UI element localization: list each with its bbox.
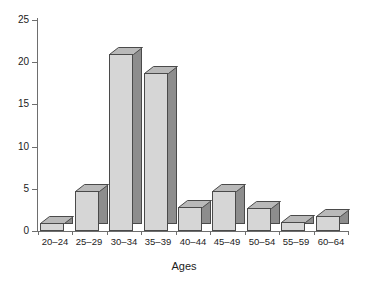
- bar-front-face: [109, 54, 133, 231]
- x-tick-label: 35–39: [141, 236, 175, 247]
- bar: [40, 216, 73, 231]
- bar: [247, 201, 280, 231]
- y-tick-mark: [32, 189, 37, 190]
- x-tick-label: 50–54: [245, 236, 279, 247]
- x-tick-mark: [314, 231, 315, 235]
- bar-chart: 0510152025 20–2425–2930–3435–3940–4445–4…: [0, 0, 368, 286]
- bar: [281, 215, 314, 231]
- x-tick-label: 40–44: [176, 236, 210, 247]
- bar-top-face: [178, 200, 213, 209]
- bar-top-face: [144, 66, 179, 75]
- x-tick-mark: [107, 231, 108, 235]
- bar-top-face: [40, 216, 75, 225]
- x-tick-label: 20–24: [38, 236, 72, 247]
- x-tick-mark: [141, 231, 142, 235]
- x-tick-label: 45–49: [210, 236, 244, 247]
- bar: [316, 209, 349, 231]
- bar-front-face: [144, 73, 168, 231]
- y-tick-label: 5: [5, 184, 29, 194]
- bar-front-face: [178, 207, 202, 231]
- bar: [178, 200, 211, 231]
- bar: [109, 47, 142, 231]
- bar-front-face: [75, 191, 99, 231]
- x-axis-title: Ages: [0, 260, 368, 272]
- bar-top-face: [281, 215, 316, 224]
- bar-top-face: [212, 184, 247, 193]
- y-tick-label: 15: [5, 99, 29, 109]
- bar-top-face: [247, 201, 282, 210]
- x-tick-mark: [279, 231, 280, 235]
- x-tick-label: 25–29: [72, 236, 106, 247]
- bar-side-face: [133, 47, 142, 224]
- x-tick-mark: [176, 231, 177, 235]
- x-tick-label: 55–59: [279, 236, 313, 247]
- y-tick-mark: [32, 231, 37, 232]
- bar-front-face: [316, 216, 340, 231]
- bar: [75, 184, 108, 231]
- bar-front-face: [247, 208, 271, 231]
- y-tick-mark: [32, 147, 37, 148]
- y-tick-label: 20: [5, 57, 29, 67]
- y-tick-label: 25: [5, 15, 29, 25]
- y-axis-line: [37, 18, 38, 232]
- bar-side-face: [168, 66, 177, 224]
- y-tick-mark: [32, 104, 37, 105]
- x-tick-mark: [210, 231, 211, 235]
- y-tick-mark: [32, 20, 37, 21]
- x-tick-mark: [72, 231, 73, 235]
- bar: [144, 66, 177, 231]
- bar-front-face: [212, 191, 236, 231]
- y-tick-label: 0: [5, 226, 29, 236]
- bar-top-face: [75, 184, 110, 193]
- x-tick-mark: [38, 231, 39, 235]
- x-tick-label: 60–64: [314, 236, 348, 247]
- x-axis-line: [37, 231, 349, 232]
- y-tick-mark: [32, 62, 37, 63]
- bar-top-face: [109, 47, 144, 56]
- bar: [212, 184, 245, 231]
- y-tick-label: 10: [5, 142, 29, 152]
- bar-top-face: [316, 209, 351, 218]
- x-tick-mark: [348, 231, 349, 235]
- x-tick-mark: [245, 231, 246, 235]
- x-tick-label: 30–34: [107, 236, 141, 247]
